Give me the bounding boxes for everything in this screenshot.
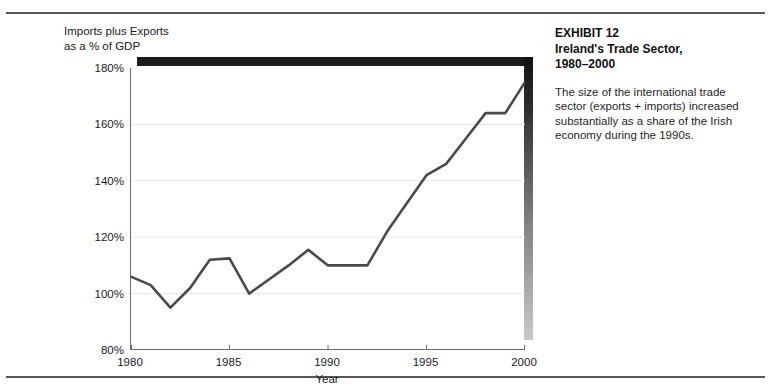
- y-tick-label-80: 80%: [68, 344, 124, 356]
- exhibit-title-line-3: 1980–2000: [555, 57, 740, 73]
- y-tick-label-100: 100%: [68, 288, 124, 300]
- x-tick-label-1980: 1980: [100, 356, 160, 369]
- y-tick-label-140: 140%: [68, 175, 124, 187]
- x-axis-tick-labels: 19801985199019952000: [130, 356, 530, 372]
- gridlines: [131, 68, 525, 294]
- y-axis-title: Imports plus Exports as a % of GDP: [64, 24, 169, 54]
- line-chart-svg: [131, 68, 525, 350]
- y-tick-label-120: 120%: [68, 231, 124, 243]
- plot-shadow-right: [524, 57, 533, 340]
- x-axis-title: Year: [130, 373, 524, 385]
- plot-frame: [130, 68, 524, 350]
- x-tick-label-1995: 1995: [396, 356, 456, 369]
- exhibit-text-column: EXHIBIT 12Ireland's Trade Sector,1980–20…: [555, 26, 740, 143]
- exhibit-figure: Imports plus Exports as a % of GDP 80%10…: [0, 0, 771, 387]
- y-tick-label-160: 160%: [68, 118, 124, 130]
- plot-shadow-top: [137, 57, 533, 66]
- exhibit-caption: The size of the international trade sect…: [555, 85, 740, 143]
- x-tick-label-1990: 1990: [297, 356, 357, 369]
- y-tick-label-180: 180%: [68, 62, 124, 74]
- x-tick-label-1985: 1985: [199, 356, 259, 369]
- chart-area: Imports plus Exports as a % of GDP 80%10…: [0, 12, 545, 376]
- exhibit-title: EXHIBIT 12Ireland's Trade Sector,1980–20…: [555, 26, 740, 73]
- x-tick-label-2000: 2000: [494, 356, 554, 369]
- x-tick-marks: [132, 345, 525, 350]
- exhibit-title-line-2: Ireland's Trade Sector,: [555, 42, 740, 58]
- series-line-trade-share: [131, 82, 525, 308]
- exhibit-title-line-1: EXHIBIT 12: [555, 26, 740, 42]
- y-axis-tick-labels: 80%100%120%140%160%180%: [66, 68, 124, 350]
